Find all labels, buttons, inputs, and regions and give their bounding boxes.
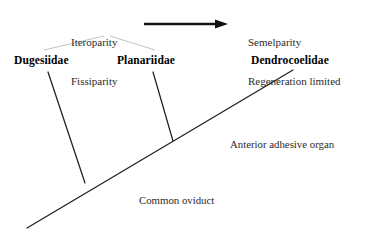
character-oviduct-line-1: Common oviduct — [139, 194, 214, 207]
character-common-oviduct: Common oviduct opens to atrium — [139, 169, 214, 236]
derived-state-line-1: Semelparity — [248, 36, 341, 49]
branch-planariidae — [153, 72, 173, 141]
taxon-label-planariidae: Planariidae — [117, 54, 175, 68]
taxon-label-dugesiidae: Dugesiidae — [14, 54, 69, 68]
transition-arrow — [144, 20, 228, 29]
derived-state-line-2: Regeneration limited — [248, 75, 341, 88]
character-anterior-adhesive-organ: Anterior adhesive organ — [230, 113, 334, 177]
character-anterior-line-1: Anterior adhesive organ — [230, 138, 334, 151]
taxon-label-dendrocoelidae: Dendrocoelidae — [251, 54, 329, 68]
cladogram-figure: Iteroparity Fissiparity Semelparity Rege… — [0, 0, 365, 236]
transition-arrow-head — [215, 20, 228, 29]
ancestral-state-line-2: Fissiparity — [71, 75, 117, 88]
ancestral-state-label: Iteroparity Fissiparity — [71, 10, 117, 114]
ancestral-state-line-1: Iteroparity — [71, 36, 117, 49]
character-oviduct-line-2: opens to atrium — [139, 233, 214, 236]
